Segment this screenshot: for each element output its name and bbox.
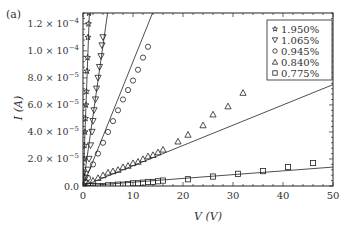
- y-tick-label: 6.0 × 10−5: [27, 98, 79, 110]
- circle-marker: [115, 108, 120, 113]
- y-tick-label: 0.0: [64, 181, 79, 192]
- triangle-up-marker: [210, 111, 216, 117]
- circle-marker: [90, 162, 95, 167]
- triangle-up-marker: [145, 153, 151, 159]
- scatter-chart: (a) 010203040500.02.0 × 10−54.0 × 10−56.…: [0, 0, 354, 229]
- square-marker: [285, 164, 290, 169]
- square-marker: [155, 179, 160, 184]
- svg-text:0.945%: 0.945%: [281, 46, 319, 57]
- square-marker: [150, 179, 155, 184]
- triangle-up-marker: [240, 90, 246, 96]
- circle-marker: [120, 97, 125, 102]
- square-marker: [310, 160, 315, 165]
- svg-text:1.950%: 1.950%: [281, 24, 319, 35]
- square-marker: [185, 177, 190, 182]
- chart-container: (a) 010203040500.02.0 × 10−54.0 × 10−56.…: [0, 0, 354, 229]
- y-tick-label: 8.0 × 10−5: [27, 71, 79, 83]
- circle-marker: [110, 119, 115, 124]
- x-tick-label: 30: [227, 190, 240, 201]
- triangle-down-marker: [89, 129, 95, 135]
- triangle-up-marker: [185, 132, 191, 138]
- legend: 1.950%1.065%0.945%0.840%0.775%: [267, 20, 332, 80]
- circle-marker: [105, 129, 110, 134]
- triangle-up-marker: [175, 138, 181, 144]
- circle-marker: [135, 67, 140, 72]
- circle-marker: [140, 55, 145, 60]
- circle-marker: [130, 78, 135, 83]
- square-marker: [260, 169, 265, 174]
- circle-marker: [145, 44, 150, 49]
- y-tick-label: 2.0 × 10−5: [27, 152, 79, 164]
- triangle-up-marker: [105, 169, 111, 175]
- triangle-up-marker: [225, 103, 231, 109]
- triangle-down-marker: [99, 43, 105, 49]
- x-tick-label: 20: [177, 190, 190, 201]
- x-tick-label: 50: [327, 190, 340, 201]
- x-tick-label: 0: [80, 190, 86, 201]
- square-marker: [160, 178, 165, 183]
- svg-text:0.775%: 0.775%: [281, 68, 319, 79]
- triangle-down-marker: [90, 119, 96, 125]
- panel-label: (a): [6, 8, 21, 21]
- triangle-up-marker: [200, 122, 206, 128]
- circle-marker: [100, 140, 105, 145]
- x-tick-label: 10: [127, 190, 140, 201]
- y-axis-label: I (A): [12, 96, 25, 121]
- svg-text:1.065%: 1.065%: [281, 35, 319, 46]
- y-tick-label: 4.0 × 10−5: [27, 125, 79, 137]
- y-tick-label: 1.2 × 10−4: [27, 17, 79, 29]
- x-axis-label: V (V): [194, 210, 222, 223]
- triangle-up-marker: [160, 146, 166, 152]
- y-tick-label: 1.0 × 10−4: [27, 44, 79, 56]
- square-marker: [105, 183, 110, 188]
- circle-marker: [125, 87, 130, 92]
- star-marker: [85, 34, 91, 40]
- square-marker: [145, 179, 150, 184]
- x-tick-label: 40: [277, 190, 290, 201]
- svg-text:0.840%: 0.840%: [281, 57, 319, 68]
- triangle-down-marker: [100, 35, 106, 41]
